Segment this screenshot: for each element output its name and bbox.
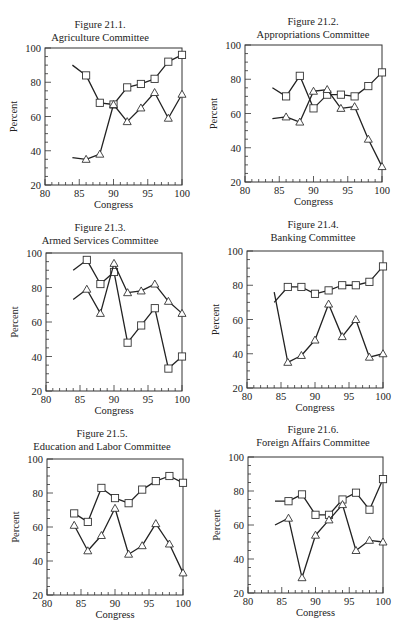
y-tick-label: 40	[33, 556, 44, 567]
triangle-marker	[151, 89, 159, 96]
y-tick-label: 60	[231, 109, 242, 120]
y-axis-label: Percent	[208, 98, 219, 130]
square-marker	[337, 91, 344, 98]
y-tick-label: 80	[231, 74, 242, 85]
square-marker	[179, 479, 186, 486]
triangle-marker	[165, 540, 173, 547]
x-tick-label: 90	[310, 596, 321, 607]
triangle-marker	[152, 520, 160, 527]
y-tick-label: 60	[234, 520, 245, 531]
square-marker	[351, 93, 358, 100]
triangle-marker	[125, 550, 133, 557]
triangle-marker	[164, 114, 172, 121]
y-tick-label: 60	[31, 112, 42, 123]
x-tick-label: 100	[174, 188, 190, 199]
x-tick-label: 85	[75, 394, 86, 405]
y-axis-label: Percent	[210, 304, 221, 336]
y-axis-label: Percent	[211, 509, 222, 541]
chart-2: 8085909510020406080100CongressPercent	[208, 40, 390, 207]
square-marker	[97, 280, 104, 287]
y-tick-label: 20	[234, 588, 245, 599]
square-marker	[137, 80, 144, 87]
y-axis-label: Percent	[10, 511, 21, 543]
y-tick-label: 60	[33, 522, 44, 533]
x-tick-label: 90	[110, 598, 121, 609]
triangle-marker	[285, 514, 293, 521]
square-marker	[98, 484, 105, 491]
y-tick-label: 20	[233, 383, 244, 394]
triangle-marker	[325, 300, 333, 307]
plot-frame	[247, 251, 383, 388]
square-marker	[379, 263, 386, 270]
triangle-marker	[138, 542, 146, 549]
x-axis-label: Congress	[95, 609, 134, 620]
square-marker	[366, 506, 373, 513]
triangle-marker	[96, 309, 104, 316]
x-axis-label: Congress	[94, 405, 133, 416]
y-tick-label: 40	[234, 554, 245, 565]
square-marker	[138, 322, 145, 329]
x-tick-label: 100	[374, 185, 390, 196]
y-tick-label: 100	[26, 248, 42, 259]
y-tick-label: 100	[228, 452, 244, 463]
square-marker	[124, 339, 131, 346]
square-marker	[124, 84, 131, 91]
plot-frame	[47, 459, 183, 595]
triangle-marker	[311, 336, 319, 343]
square-marker	[165, 365, 172, 372]
x-tick-label: 95	[143, 188, 154, 199]
square-marker	[325, 287, 332, 294]
x-tick-label: 80	[242, 391, 253, 402]
square-marker	[111, 495, 118, 502]
y-tick-label: 20	[32, 386, 43, 397]
x-tick-label: 85	[276, 391, 287, 402]
y-tick-label: 40	[31, 146, 42, 157]
square-marker	[311, 290, 318, 297]
x-tick-label: 80	[240, 185, 251, 196]
square-marker	[178, 353, 185, 360]
plot-frame	[245, 45, 382, 182]
triangle-marker	[96, 150, 104, 157]
x-tick-label: 85	[74, 188, 85, 199]
y-tick-label: 80	[32, 283, 43, 294]
y-tick-label: 100	[27, 454, 43, 465]
triangle-marker	[366, 536, 374, 543]
series-line-squares	[73, 260, 182, 369]
x-tick-label: 95	[344, 391, 355, 402]
x-tick-label: 95	[344, 596, 355, 607]
square-marker	[83, 256, 90, 263]
y-tick-label: 20	[33, 590, 44, 601]
y-tick-label: 100	[25, 43, 41, 54]
square-marker	[125, 500, 132, 507]
square-marker	[298, 283, 305, 290]
square-marker	[366, 278, 373, 285]
y-tick-label: 80	[233, 280, 244, 291]
x-tick-label: 90	[310, 391, 321, 402]
triangle-marker	[83, 285, 91, 292]
triangle-marker	[379, 350, 387, 357]
x-tick-label: 95	[343, 185, 354, 196]
square-marker	[84, 518, 91, 525]
y-tick-label: 100	[227, 246, 243, 257]
x-axis-label: Congress	[296, 607, 335, 618]
square-marker	[379, 476, 386, 483]
y-axis-label: Percent	[9, 306, 20, 338]
x-axis-label: Congress	[294, 196, 333, 207]
x-axis-label: Congress	[295, 402, 334, 413]
square-marker	[339, 282, 346, 289]
chart-5: 8085909510020406080100CongressPercent	[10, 454, 191, 620]
square-marker	[378, 69, 385, 76]
x-tick-label: 90	[108, 188, 119, 199]
x-tick-label: 100	[375, 391, 391, 402]
triangle-marker	[179, 569, 187, 576]
series-line-triangles	[72, 93, 182, 160]
y-tick-label: 20	[231, 177, 242, 188]
y-tick-label: 40	[32, 352, 43, 363]
triangle-marker	[284, 358, 292, 365]
x-tick-label: 95	[143, 394, 154, 405]
x-tick-label: 80	[42, 598, 53, 609]
x-tick-label: 80	[243, 596, 254, 607]
square-marker	[165, 58, 172, 65]
chart-1: 8085909510020406080100CongressPercent	[8, 43, 190, 210]
triangle-marker	[151, 280, 159, 287]
